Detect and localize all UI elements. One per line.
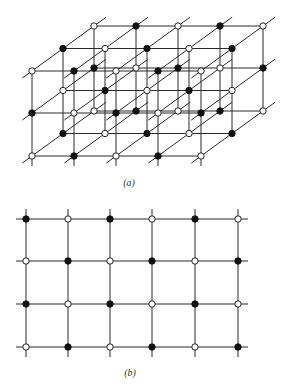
filled-ion-icon bbox=[192, 301, 198, 307]
panel-b-ions bbox=[23, 216, 241, 350]
filled-ion-icon bbox=[175, 65, 181, 71]
filled-ion-icon bbox=[133, 23, 139, 29]
open-ion-icon bbox=[198, 153, 204, 159]
open-ion-icon bbox=[192, 344, 198, 350]
open-ion-icon bbox=[113, 68, 119, 74]
open-ion-icon bbox=[23, 344, 29, 350]
open-ion-icon bbox=[198, 68, 204, 74]
filled-ion-icon bbox=[107, 216, 113, 222]
open-ion-icon bbox=[29, 153, 35, 159]
panel-a-3d-lattice bbox=[22, 17, 275, 166]
open-ion-icon bbox=[175, 23, 181, 29]
filled-ion-icon bbox=[29, 110, 35, 116]
open-ion-icon bbox=[235, 216, 241, 222]
open-ion-icon bbox=[217, 65, 223, 71]
open-ion-icon bbox=[186, 130, 192, 136]
open-ion-icon bbox=[65, 216, 71, 222]
filled-ion-icon bbox=[155, 153, 161, 159]
filled-ion-icon bbox=[102, 87, 108, 93]
open-ion-icon bbox=[260, 23, 266, 29]
filled-ion-icon bbox=[229, 45, 235, 51]
open-ion-icon bbox=[91, 108, 97, 114]
filled-ion-icon bbox=[198, 110, 204, 116]
filled-ion-icon bbox=[144, 130, 150, 136]
panel-a-ions bbox=[29, 23, 266, 159]
filled-ion-icon bbox=[149, 258, 155, 264]
panel-b-2d-lattice bbox=[16, 209, 248, 357]
filled-ion-icon bbox=[60, 130, 66, 136]
panel-b-caption: (b) bbox=[124, 367, 136, 378]
open-ion-icon bbox=[113, 153, 119, 159]
open-ion-icon bbox=[155, 110, 161, 116]
open-ion-icon bbox=[235, 301, 241, 307]
panel-b-bonds bbox=[16, 209, 248, 357]
open-ion-icon bbox=[133, 65, 139, 71]
open-ion-icon bbox=[149, 216, 155, 222]
filled-ion-icon bbox=[23, 301, 29, 307]
filled-ion-icon bbox=[192, 216, 198, 222]
filled-ion-icon bbox=[235, 344, 241, 350]
filled-ion-icon bbox=[65, 344, 71, 350]
open-ion-icon bbox=[65, 301, 71, 307]
open-ion-icon bbox=[107, 258, 113, 264]
panel-a-caption: (a) bbox=[123, 177, 135, 188]
filled-ion-icon bbox=[149, 344, 155, 350]
open-ion-icon bbox=[91, 23, 97, 29]
open-ion-icon bbox=[186, 45, 192, 51]
open-ion-icon bbox=[102, 45, 108, 51]
open-ion-icon bbox=[192, 258, 198, 264]
filled-ion-icon bbox=[113, 110, 119, 116]
filled-ion-icon bbox=[229, 130, 235, 136]
open-ion-icon bbox=[29, 68, 35, 74]
filled-ion-icon bbox=[91, 65, 97, 71]
filled-ion-icon bbox=[217, 108, 223, 114]
open-ion-icon bbox=[175, 108, 181, 114]
open-ion-icon bbox=[144, 87, 150, 93]
filled-ion-icon bbox=[217, 23, 223, 29]
filled-ion-icon bbox=[144, 45, 150, 51]
filled-ion-icon bbox=[260, 65, 266, 71]
open-ion-icon bbox=[60, 87, 66, 93]
filled-ion-icon bbox=[155, 68, 161, 74]
lattice-figure bbox=[0, 0, 292, 392]
filled-ion-icon bbox=[60, 45, 66, 51]
open-ion-icon bbox=[23, 258, 29, 264]
filled-ion-icon bbox=[186, 87, 192, 93]
open-ion-icon bbox=[260, 108, 266, 114]
filled-ion-icon bbox=[235, 258, 241, 264]
filled-ion-icon bbox=[65, 258, 71, 264]
open-ion-icon bbox=[229, 87, 235, 93]
filled-ion-icon bbox=[107, 301, 113, 307]
open-ion-icon bbox=[71, 110, 77, 116]
filled-ion-icon bbox=[133, 108, 139, 114]
open-ion-icon bbox=[102, 130, 108, 136]
open-ion-icon bbox=[107, 344, 113, 350]
filled-ion-icon bbox=[23, 216, 29, 222]
open-ion-icon bbox=[149, 301, 155, 307]
filled-ion-icon bbox=[71, 153, 77, 159]
filled-ion-icon bbox=[71, 68, 77, 74]
